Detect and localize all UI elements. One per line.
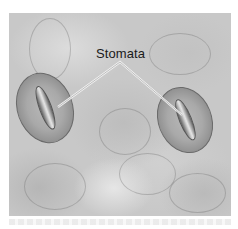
leader-lines	[0, 0, 238, 229]
cut-off-caption	[9, 219, 231, 225]
stomata-label: Stomata	[96, 46, 145, 61]
